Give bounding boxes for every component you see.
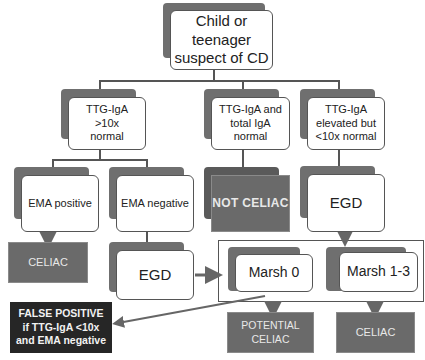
- node-marsh0: Marsh 0: [235, 254, 313, 292]
- node-egd-right: EGD: [307, 174, 385, 232]
- ema-positive-label: EMA positive: [28, 197, 92, 211]
- node-marsh13: Marsh 1-3: [339, 252, 418, 292]
- celiac-right-label: CELIAC: [356, 325, 396, 339]
- node-ema-positive: EMA positive: [21, 175, 99, 232]
- node-egd-left: EGD: [116, 250, 194, 300]
- marsh0-label: Marsh 0: [249, 264, 300, 282]
- marsh13-label: Marsh 1-3: [347, 263, 410, 281]
- ttg-normal-label: TTG-IgA and total IgA normal: [218, 103, 283, 144]
- node-ema-negative: EMA negative: [116, 175, 194, 232]
- potential-celiac-label: POTENTIAL CELIAC: [238, 319, 303, 346]
- node-false-positive: FALSE POSITIVE if TTG-IgA <10x and EMA n…: [10, 302, 112, 353]
- egd-right-label: EGD: [330, 194, 363, 213]
- celiac-left-label: CELIAC: [28, 255, 68, 269]
- node-celiac-left: CELIAC: [8, 242, 88, 283]
- root-node: Child or teenager suspect of CD: [170, 10, 273, 70]
- egd-left-label: EGD: [139, 266, 172, 285]
- node-not-celiac: NOT CELIAC: [211, 175, 290, 232]
- ema-negative-label: EMA negative: [121, 197, 189, 211]
- false-positive-label: FALSE POSITIVE if TTG-IgA <10x and EMA n…: [14, 307, 108, 348]
- node-celiac-right: CELIAC: [336, 312, 415, 353]
- node-ttg-elevated: TTG-IgA elevated but <10x normal: [307, 97, 385, 150]
- node-ttg-high: TTG-IgA >10x normal: [68, 97, 146, 150]
- node-ttg-normal: TTG-IgA and total IgA normal: [211, 97, 290, 150]
- ttg-elevated-label: TTG-IgA elevated but <10x normal: [314, 103, 378, 144]
- ttg-high-label: TTG-IgA >10x normal: [77, 103, 137, 144]
- root-label: Child or teenager suspect of CD: [171, 12, 272, 68]
- not-celiac-label: NOT CELIAC: [212, 196, 288, 212]
- node-potential-celiac: POTENTIAL CELIAC: [227, 312, 314, 353]
